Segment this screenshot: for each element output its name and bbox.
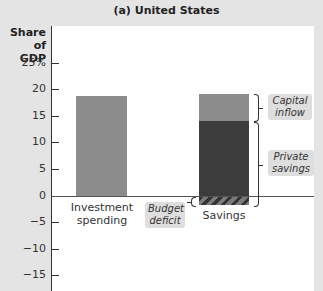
category-label-savings: Savings: [199, 209, 249, 222]
private-savings-tag: Private savings: [268, 150, 314, 176]
y-tick-label: −5: [0, 215, 46, 228]
y-tick: [52, 116, 59, 117]
category-label-investment: Investment spending: [66, 201, 138, 227]
y-tick: [52, 275, 59, 276]
y-tick: [52, 142, 59, 143]
y-tick: [52, 222, 59, 223]
zero-line: [52, 196, 314, 197]
budget-deficit-tag: Budget deficit: [145, 202, 185, 228]
capital-inflow-tag: Capital inflow: [268, 94, 312, 120]
budget-deficit-bar: [199, 197, 249, 205]
y-tick: [52, 169, 59, 170]
y-tick-label: 25%: [0, 56, 46, 69]
y-tick-label: 15: [0, 109, 46, 122]
private-savings-bar: [199, 121, 249, 196]
y-tick-label: −15: [0, 268, 46, 281]
y-axis: [51, 26, 52, 291]
investment-spending-bar: [76, 96, 127, 196]
y-tick-label: 0: [0, 189, 46, 202]
capital-inflow-brace: [254, 94, 259, 122]
y-tick-label: 20: [0, 82, 46, 95]
budget-deficit-brace: [191, 197, 196, 207]
capital-inflow-bar: [199, 94, 249, 121]
y-tick: [52, 89, 59, 90]
y-tick: [52, 63, 59, 64]
chart-title: (a) United States: [0, 4, 323, 17]
y-tick-label: 5: [0, 162, 46, 175]
y-tick: [52, 249, 59, 250]
private-savings-brace: [254, 122, 259, 207]
y-axis-label-line1: Share: [6, 26, 46, 39]
y-tick-label: −10: [0, 242, 46, 255]
y-tick-label: 10: [0, 135, 46, 148]
